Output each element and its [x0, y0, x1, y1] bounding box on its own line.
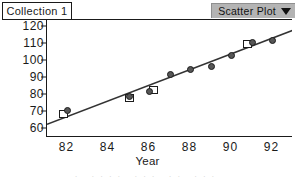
- page-artifact-text: · ···· ··· ·· ···: [0, 172, 295, 181]
- data-point-circle[interactable]: [126, 93, 133, 100]
- x-axis-tick-label: 90: [223, 140, 238, 154]
- x-axis-title: Year: [0, 155, 295, 167]
- data-point-circle[interactable]: [249, 39, 256, 46]
- x-axis-tick-label: 88: [182, 140, 197, 154]
- x-axis-tick-label: 92: [264, 140, 279, 154]
- chevron-down-icon: [281, 8, 291, 15]
- data-point-circle[interactable]: [269, 37, 276, 44]
- data-point-circle[interactable]: [208, 63, 215, 70]
- x-axis-tick-label: 86: [141, 140, 156, 154]
- scatter-plot-window: Collection 1 Scatter Plot 60708090100110…: [0, 0, 295, 181]
- plot-area: [46, 19, 292, 137]
- y-axis-tick-labels: 60708090100110120: [0, 0, 44, 181]
- plot-type-label: Scatter Plot: [218, 5, 276, 17]
- data-point-circle[interactable]: [167, 71, 174, 78]
- plot-canvas: [47, 20, 292, 136]
- plot-type-dropdown[interactable]: Scatter Plot: [211, 3, 295, 18]
- x-axis-tick-label: 84: [100, 140, 115, 154]
- x-axis-tick-label: 82: [59, 140, 74, 154]
